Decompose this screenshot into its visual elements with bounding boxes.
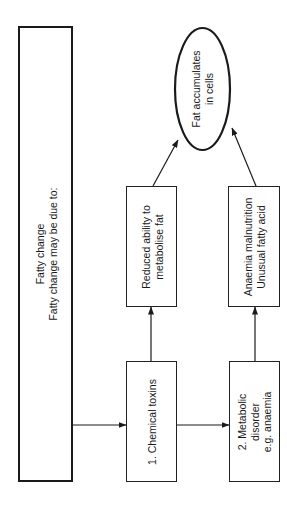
outcome-label: Fat accumulates in cells: [190, 50, 215, 127]
cause-line: 1. Chemical toxins: [145, 379, 158, 465]
effect-line: Unusual fatty acid: [254, 197, 267, 296]
effect-line: metabolise fat: [152, 205, 165, 288]
main-box-label: Fatty change Fatty change may be due to:: [33, 187, 58, 320]
arrow-reduced-to-outcome: [153, 140, 178, 186]
arrow-anaemia-to-outcome: [232, 128, 256, 186]
effect-box-reduced-ability: Reduced ability to metabolise fat: [126, 186, 177, 307]
outcome-line: in cells: [202, 50, 215, 127]
cause-box-metabolic-disorder-label: 2. Metabolic disorder e.g. anaemia: [236, 391, 274, 452]
cause-line: 2. Metabolic: [236, 391, 249, 452]
outcome-line: Fat accumulates: [190, 50, 203, 127]
cause-box-chemical-toxins-label: 1. Chemical toxins: [145, 379, 158, 465]
effect-line: Anaemia malnutrition: [242, 197, 255, 296]
effect-box-reduced-ability-label: Reduced ability to metabolise fat: [139, 205, 164, 288]
main-box-subtitle: Fatty change may be due to:: [46, 187, 59, 320]
main-box-title: Fatty change: [33, 187, 46, 320]
cause-box-chemical-toxins: 1. Chemical toxins: [126, 361, 177, 482]
cause-box-metabolic-disorder: 2. Metabolic disorder e.g. anaemia: [229, 361, 280, 482]
effect-box-anaemia-malnutrition-label: Anaemia malnutrition Unusual fatty acid: [242, 197, 267, 296]
cause-line: disorder: [248, 391, 261, 452]
cause-line: e.g. anaemia: [261, 391, 274, 452]
main-box: Fatty change Fatty change may be due to:: [18, 26, 73, 482]
effect-box-anaemia-malnutrition: Anaemia malnutrition Unusual fatty acid: [228, 186, 280, 307]
effect-line: Reduced ability to: [139, 205, 152, 288]
